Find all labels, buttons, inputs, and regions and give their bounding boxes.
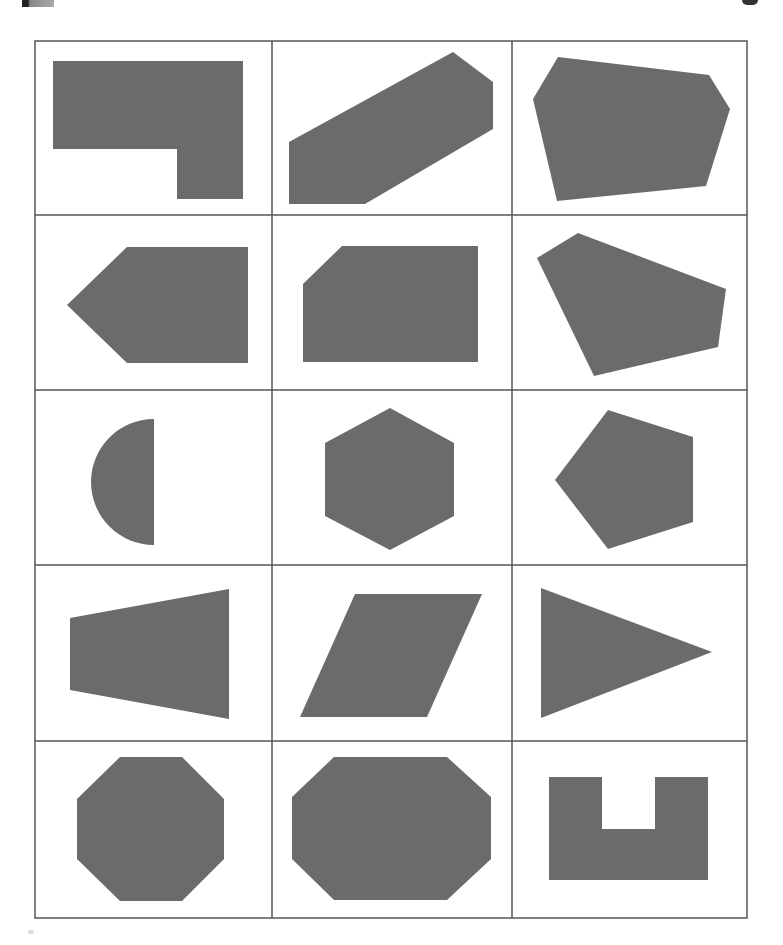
shape-regular-octagon xyxy=(77,757,224,901)
scan-artifact xyxy=(28,930,34,934)
shape-regular-pentagon xyxy=(555,410,693,549)
shape-pentagon-arrow xyxy=(67,247,248,363)
shapes-worksheet xyxy=(0,0,783,945)
shape-elongated-octagon xyxy=(292,757,491,900)
shape-pentagon-cut-corner xyxy=(303,246,478,362)
shape-parallelogram xyxy=(300,594,482,717)
shape-irregular-pentagon xyxy=(537,233,726,376)
shapes-layer xyxy=(53,52,730,901)
shape-trapezoid xyxy=(70,589,229,719)
shape-semicircle xyxy=(91,419,154,545)
shape-irregular-hexagon xyxy=(289,52,493,204)
shape-regular-hexagon xyxy=(325,408,454,550)
shape-irregular-hexagon xyxy=(533,57,730,201)
shape-u-shape xyxy=(549,777,708,880)
shape-l-shaped-hexagon xyxy=(53,61,243,199)
shape-triangle xyxy=(541,588,712,718)
